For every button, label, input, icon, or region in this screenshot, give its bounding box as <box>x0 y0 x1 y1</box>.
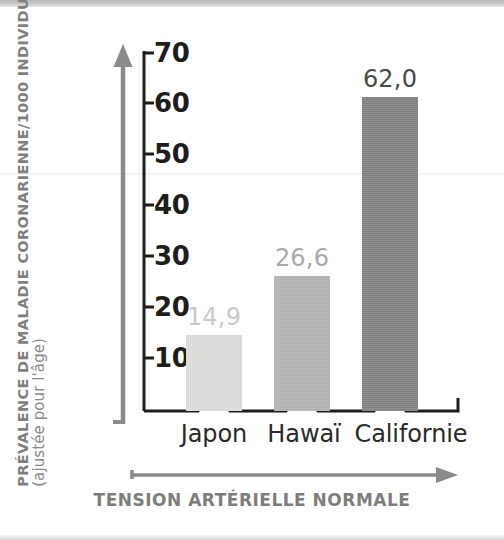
x-axis-category-labels: Japon Hawaï Californie <box>140 420 480 454</box>
plot-area: 70 60 50 40 30 20 10 14,9 26,6 62,0 <box>140 46 470 416</box>
y-tick-label-50: 50 <box>154 141 190 167</box>
bar-texture <box>274 276 330 411</box>
y-axis-title-main: PRÉVALENCE DE MALADIE CORONARIENNE/1000 … <box>16 0 31 487</box>
arrow-right-icon <box>130 466 460 484</box>
bar-texture <box>362 97 418 411</box>
x-axis-caption: TENSION ARTÉRIELLE NORMALE <box>0 490 504 510</box>
bar-value-japon: 14,9 <box>187 303 241 331</box>
bar-californie[interactable]: 62,0 <box>362 97 418 411</box>
y-tick-label-70: 70 <box>154 40 190 66</box>
arrow-up-icon <box>112 42 134 424</box>
y-tick-label-10: 10 <box>154 345 190 371</box>
y-tick-label-20: 20 <box>154 294 190 320</box>
y-tick-label-30: 30 <box>154 243 190 269</box>
y-axis-title-sub: (ajustée pour l'âge) <box>32 338 48 487</box>
bar-value-californie: 62,0 <box>363 65 417 93</box>
scan-edge-top <box>0 0 504 7</box>
y-axis-title: PRÉVALENCE DE MALADIE CORONARIENNE/1000 … <box>12 52 52 422</box>
bar-hawai[interactable]: 26,6 <box>274 276 330 411</box>
y-tick-label-40: 40 <box>154 192 190 218</box>
bar-value-hawai: 26,6 <box>275 244 329 272</box>
bar-texture <box>186 335 242 411</box>
bar-japon[interactable]: 14,9 <box>186 335 242 411</box>
y-tick-label-60: 60 <box>154 90 190 116</box>
scan-edge-bottom <box>0 535 504 540</box>
bar-chart-figure: PRÉVALENCE DE MALADIE CORONARIENNE/1000 … <box>0 0 504 540</box>
x-label-californie: Californie <box>336 420 486 448</box>
